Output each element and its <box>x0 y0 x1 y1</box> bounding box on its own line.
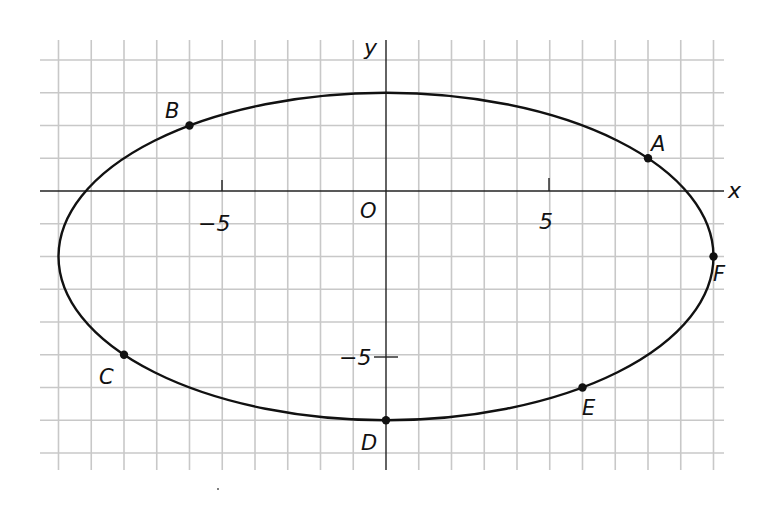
point-label-a: A <box>649 132 665 156</box>
y-tick-label-neg5: −5 <box>339 345 371 370</box>
point-label-f: F <box>713 262 726 286</box>
axes <box>40 40 724 470</box>
point-b <box>185 121 193 129</box>
x-tick-label-neg5: −5 <box>198 211 230 236</box>
grid <box>40 40 724 470</box>
point-c <box>120 351 128 359</box>
point-labels: A B C D E F <box>99 99 726 455</box>
x-tick-label-5: 5 <box>539 209 553 234</box>
point-label-c: C <box>99 365 114 389</box>
point-label-e: E <box>582 396 596 420</box>
origin-label: O <box>360 199 377 223</box>
point-d <box>382 416 390 424</box>
point-label-b: B <box>165 99 179 123</box>
point-f <box>709 252 717 260</box>
stray-dot <box>217 488 219 490</box>
point-label-d: D <box>361 431 377 455</box>
y-axis-label: y <box>363 35 378 60</box>
x-axis-label: x <box>727 178 742 203</box>
point-e <box>578 383 586 391</box>
ellipse-graph: x y O −5 5 −5 A B C D E F <box>0 0 778 509</box>
